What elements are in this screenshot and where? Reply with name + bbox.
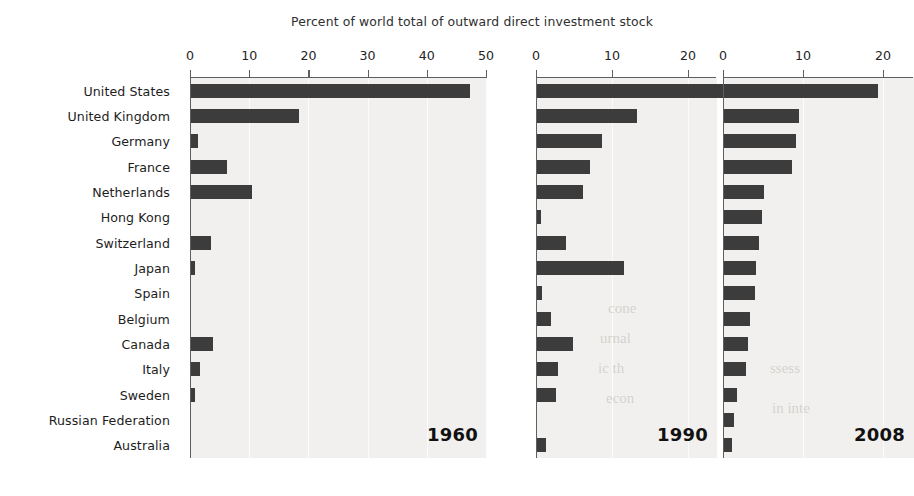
bar-2008-switzerland <box>724 236 759 250</box>
bar-1990-germany <box>537 134 602 148</box>
country-label-united-states: United States <box>0 83 170 98</box>
bar-1960-japan <box>191 261 195 275</box>
x-tick-1990-20 <box>688 70 689 78</box>
bar-2008-hong-kong <box>724 210 762 224</box>
x-axis-line-1960 <box>190 77 486 78</box>
bar-1990-sweden <box>537 388 556 402</box>
x-tick-2008-10 <box>803 70 804 78</box>
bar-1990-japan <box>537 261 624 275</box>
bar-2008-belgium <box>724 312 750 326</box>
country-label-france: France <box>0 159 170 174</box>
bar-2008-canada <box>724 337 748 351</box>
x-tick-label-1960-0: 0 <box>186 48 194 63</box>
gridline-1990-20 <box>688 78 689 458</box>
bar-1990-italy <box>537 362 558 376</box>
bar-1990-canada <box>537 337 573 351</box>
bar-1990-australia <box>537 438 546 452</box>
x-axis-line-2008 <box>723 77 913 78</box>
bar-1990-switzerland <box>537 236 566 250</box>
country-label-sweden: Sweden <box>0 387 170 402</box>
country-label-hong-kong: Hong Kong <box>0 210 170 225</box>
x-tick-label-1960-20: 20 <box>300 48 316 63</box>
x-tick-1960-10 <box>249 70 250 78</box>
bar-1960-germany <box>191 134 198 148</box>
bar-2008-united-states <box>724 84 878 98</box>
country-label-netherlands: Netherlands <box>0 185 170 200</box>
panel-plot-area-1960 <box>190 78 487 458</box>
gridline-1960-50 <box>486 78 487 458</box>
x-tick-label-1990-20: 20 <box>680 48 696 63</box>
x-tick-label-1960-40: 40 <box>419 48 435 63</box>
x-tick-1960-20 <box>308 70 309 78</box>
country-label-belgium: Belgium <box>0 311 170 326</box>
country-label-united-kingdom: United Kingdom <box>0 109 170 124</box>
x-tick-1960-0 <box>190 70 191 78</box>
country-label-spain: Spain <box>0 286 170 301</box>
x-tick-1960-30 <box>368 70 369 78</box>
country-label-switzerland: Switzerland <box>0 235 170 250</box>
bar-2008-france <box>724 160 792 174</box>
bar-1990-spain <box>537 286 542 300</box>
bar-2008-germany <box>724 134 796 148</box>
gridline-2008-20 <box>883 78 884 458</box>
chart-title: Percent of world total of outward direct… <box>0 14 892 29</box>
bar-1960-switzerland <box>191 236 211 250</box>
country-label-japan: Japan <box>0 261 170 276</box>
x-tick-1960-40 <box>427 70 428 78</box>
gridline-2008-10 <box>803 78 804 458</box>
year-label-2008: 2008 <box>854 424 905 445</box>
gridline-1960-40 <box>427 78 428 458</box>
x-tick-label-1960-30: 30 <box>360 48 376 63</box>
x-tick-label-2008-20: 20 <box>875 48 891 63</box>
bar-2008-japan <box>724 261 756 275</box>
country-label-italy: Italy <box>0 362 170 377</box>
bar-1960-italy <box>191 362 200 376</box>
bar-2008-sweden <box>724 388 737 402</box>
country-label-australia: Australia <box>0 438 170 453</box>
x-tick-1960-50 <box>486 70 487 78</box>
x-tick-label-2008-10: 10 <box>795 48 811 63</box>
bar-1960-sweden <box>191 388 195 402</box>
bar-2008-united-kingdom <box>724 109 799 123</box>
bar-2008-russian-federation <box>724 413 734 427</box>
x-tick-1990-0 <box>536 70 537 78</box>
x-tick-label-1960-10: 10 <box>241 48 257 63</box>
country-label-canada: Canada <box>0 337 170 352</box>
bar-1960-canada <box>191 337 213 351</box>
bar-1990-netherlands <box>537 185 583 199</box>
bar-1960-france <box>191 160 227 174</box>
year-label-1960: 1960 <box>427 424 478 445</box>
bar-1990-united-states <box>537 84 724 98</box>
x-tick-1990-10 <box>612 70 613 78</box>
country-label-column: United StatesUnited KingdomGermanyFrance… <box>0 78 178 458</box>
gridline-1960-20 <box>308 78 309 458</box>
country-label-russian-federation: Russian Federation <box>0 413 170 428</box>
year-label-1990: 1990 <box>657 424 708 445</box>
gridline-1960-10 <box>249 78 250 458</box>
bar-1960-united-states <box>191 84 470 98</box>
bar-1990-france <box>537 160 590 174</box>
bar-2008-spain <box>724 286 755 300</box>
bar-1960-netherlands <box>191 185 252 199</box>
x-tick-label-1960-50: 50 <box>478 48 494 63</box>
bar-2008-italy <box>724 362 746 376</box>
gridline-1960-30 <box>368 78 369 458</box>
bar-2008-australia <box>724 438 732 452</box>
bar-1990-united-kingdom <box>537 109 637 123</box>
x-tick-2008-20 <box>883 70 884 78</box>
bar-1990-belgium <box>537 312 551 326</box>
bar-2008-netherlands <box>724 185 764 199</box>
x-tick-label-2008-0: 0 <box>719 48 727 63</box>
bar-1990-hong-kong <box>537 210 541 224</box>
country-label-germany: Germany <box>0 134 170 149</box>
x-tick-2008-0 <box>723 70 724 78</box>
bar-1960-united-kingdom <box>191 109 299 123</box>
x-tick-label-1990-0: 0 <box>532 48 540 63</box>
x-tick-label-1990-10: 10 <box>604 48 620 63</box>
